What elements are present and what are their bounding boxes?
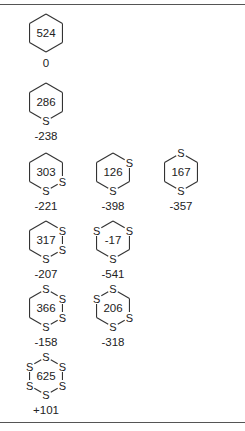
sulfur-atom-label: S xyxy=(109,321,116,333)
molecule-1-2-4-5-tetrathiane: SSSS206-318 xyxy=(78,274,148,342)
hexagon-ring-icon: SSS317 xyxy=(11,206,81,274)
sulfur-atom-label: S xyxy=(59,312,66,324)
hexagon-ring-icon: SS167 xyxy=(146,138,216,206)
sulfur-atom-label: S xyxy=(42,351,49,363)
hexagon-ring-icon: SSSSSS625 xyxy=(11,342,81,410)
bottom-rule xyxy=(0,422,245,423)
center-value: 303 xyxy=(36,166,55,178)
molecule-1-4-dithiane: SS167-357 xyxy=(146,138,216,206)
sulfur-atom-label: S xyxy=(42,185,49,197)
molecule-1-3-dithiane: SS126-398 xyxy=(78,138,148,206)
sulfur-atom-label: S xyxy=(93,225,100,237)
sulfur-atom-label: S xyxy=(26,380,33,392)
sulfur-atom-label: S xyxy=(59,293,66,305)
center-value: 524 xyxy=(36,27,56,39)
molecule-hexathiane: SSSSSS625+101 xyxy=(11,342,81,410)
center-value: 286 xyxy=(36,96,55,108)
center-value: 126 xyxy=(103,166,122,178)
sulfur-atom-label: S xyxy=(42,253,49,265)
energy-value: -318 xyxy=(101,336,124,348)
molecule-thiane: S286-238 xyxy=(11,68,81,136)
molecule-1-2-dithiane: SS303-221 xyxy=(11,138,81,206)
sulfur-atom-label: S xyxy=(59,176,66,188)
molecule-1-3-5-trithiane: SSS-17-541 xyxy=(78,206,148,274)
center-value: 625 xyxy=(36,370,55,382)
sulfur-atom-label: S xyxy=(109,185,116,197)
sulfur-atom-label: S xyxy=(177,147,184,159)
hexagon-ring-icon: SSSS366 xyxy=(11,274,81,342)
energy-value: -357 xyxy=(169,200,192,212)
sulfur-atom-label: S xyxy=(126,157,133,169)
center-value: 206 xyxy=(103,302,122,314)
center-value: 167 xyxy=(171,166,190,178)
center-value: -17 xyxy=(105,234,122,246)
molecule-1-2-3-trithiane: SSS317-207 xyxy=(11,206,81,274)
sulfur-atom-label: S xyxy=(93,293,100,305)
sulfur-atom-label: S xyxy=(59,244,66,256)
sulfur-atom-label: S xyxy=(109,253,116,265)
center-value: 366 xyxy=(36,302,55,314)
sulfur-atom-label: S xyxy=(126,225,133,237)
sulfur-atom-label: S xyxy=(26,361,33,373)
hexagon-ring-icon: SS126 xyxy=(78,138,148,206)
sulfur-atom-label: S xyxy=(59,380,66,392)
hexagon-ring-icon: SS303 xyxy=(11,138,81,206)
molecule-cyclohexane: 5240 xyxy=(11,0,81,67)
energy-value: +101 xyxy=(33,404,59,416)
molecule-1-2-3-4-tetrathiane: SSSS366-158 xyxy=(11,274,81,342)
sulfur-atom-label: S xyxy=(59,361,66,373)
hexagon-ring-icon: SSSS206 xyxy=(78,274,148,342)
sulfur-atom-label: S xyxy=(59,225,66,237)
sulfur-atom-label: S xyxy=(126,312,133,324)
sulfur-atom-label: S xyxy=(42,389,49,401)
sulfur-atom-label: S xyxy=(42,321,49,333)
sulfur-atom-label: S xyxy=(42,115,49,127)
sulfur-atom-label: S xyxy=(177,185,184,197)
center-value: 317 xyxy=(36,234,55,246)
hexagon-ring-icon: SSS-17 xyxy=(78,206,148,274)
hexagon-ring-icon: S286 xyxy=(11,68,81,136)
sulfur-atom-label: S xyxy=(42,283,49,295)
sulfur-atom-label: S xyxy=(109,283,116,295)
